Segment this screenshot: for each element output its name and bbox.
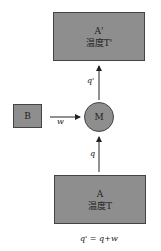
label-q-prime: q'	[87, 76, 94, 85]
equation: q' = q+w	[80, 234, 118, 243]
system-b: B	[13, 104, 42, 128]
reservoir-a: A 温度T	[54, 175, 146, 224]
reservoir-a-prime-temp: 温度T'	[86, 37, 112, 49]
label-w: w	[57, 117, 64, 126]
reservoir-a-prime-name: A'	[95, 25, 104, 37]
machine-m: M	[84, 102, 114, 132]
system-b-name: B	[24, 110, 31, 122]
machine-m-name: M	[94, 111, 103, 123]
reservoir-a-name: A	[97, 188, 104, 200]
reservoir-a-temp: 温度T	[88, 200, 112, 212]
reservoir-a-prime: A' 温度T'	[53, 12, 145, 61]
label-q: q	[90, 149, 95, 158]
